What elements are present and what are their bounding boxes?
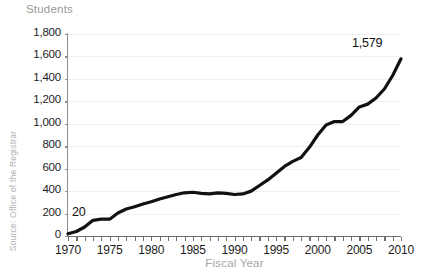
x-tick-mark [351, 237, 352, 241]
x-tick-mark [76, 237, 77, 241]
x-tick-label: 2005 [336, 243, 382, 257]
y-tick-mark [65, 56, 68, 57]
y-tick-label: 200 [15, 206, 61, 218]
x-tick-mark [235, 237, 236, 241]
x-tick-mark [201, 237, 202, 241]
x-tick-mark [168, 237, 169, 241]
x-tick-mark [118, 237, 119, 241]
x-tick-label: 2000 [295, 243, 341, 257]
x-tick-mark [384, 237, 385, 241]
students-line-chart: Students Source: Office of the Registrar… [0, 0, 423, 276]
x-tick-label: 1970 [45, 243, 91, 257]
x-tick-mark [110, 237, 111, 241]
y-tick-label: 1,200 [15, 93, 61, 105]
x-axis-title: Fiscal Year [68, 257, 401, 269]
x-tick-mark [343, 237, 344, 241]
x-tick-mark [160, 237, 161, 241]
x-tick-mark [135, 237, 136, 241]
x-tick-mark [334, 237, 335, 241]
y-tick-mark [65, 101, 68, 102]
x-tick-mark [243, 237, 244, 241]
x-tick-mark [368, 237, 369, 241]
x-tick-mark [185, 237, 186, 241]
x-tick-mark [376, 237, 377, 241]
y-tick-label: 1,400 [15, 71, 61, 83]
x-tick-mark [126, 237, 127, 241]
y-tick-label: 0 [15, 228, 61, 240]
x-tick-label: 1975 [87, 243, 133, 257]
x-tick-label: 1985 [170, 243, 216, 257]
x-tick-mark [251, 237, 252, 241]
y-tick-label: 1,000 [15, 116, 61, 128]
x-tick-mark [85, 237, 86, 241]
x-tick-label: 1980 [128, 243, 174, 257]
x-tick-mark [93, 237, 94, 241]
y-tick-mark [65, 214, 68, 215]
y-tick-mark [65, 79, 68, 80]
x-tick-label: 2010 [378, 243, 423, 257]
x-tick-mark [68, 237, 69, 241]
start-value-label: 20 [72, 205, 86, 219]
x-tick-mark [143, 237, 144, 241]
x-tick-label: 1990 [212, 243, 258, 257]
y-tick-mark [65, 169, 68, 170]
x-tick-mark [284, 237, 285, 241]
x-tick-mark [393, 237, 394, 241]
y-tick-mark [65, 34, 68, 35]
y-tick-label: 400 [15, 183, 61, 195]
x-tick-mark [276, 237, 277, 241]
y-tick-label: 800 [15, 138, 61, 150]
y-tick-label: 1,600 [15, 48, 61, 60]
y-tick-mark [65, 146, 68, 147]
y-tick-mark [65, 124, 68, 125]
x-tick-mark [359, 237, 360, 241]
x-tick-mark [218, 237, 219, 241]
x-tick-mark [210, 237, 211, 241]
x-tick-mark [301, 237, 302, 241]
x-tick-mark [151, 237, 152, 241]
y-tick-label: 1,800 [15, 26, 61, 38]
x-tick-mark [176, 237, 177, 241]
y-tick-mark [65, 191, 68, 192]
x-tick-mark [193, 237, 194, 241]
x-tick-mark [101, 237, 102, 241]
end-value-label: 1,579 [352, 36, 382, 50]
x-tick-mark [326, 237, 327, 241]
x-tick-label: 1995 [253, 243, 299, 257]
x-tick-mark [259, 237, 260, 241]
x-tick-mark [309, 237, 310, 241]
y-tick-label: 600 [15, 161, 61, 173]
x-tick-mark [318, 237, 319, 241]
x-tick-mark [401, 237, 402, 241]
x-tick-mark [268, 237, 269, 241]
x-tick-mark [226, 237, 227, 241]
x-tick-mark [293, 237, 294, 241]
